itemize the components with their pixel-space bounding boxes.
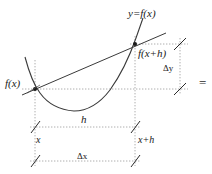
function-curve-parabola bbox=[25, 18, 143, 111]
dimension-tick-h-left bbox=[31, 121, 40, 133]
run-h-label: h bbox=[81, 114, 87, 125]
dimension-tick-delta-x-left bbox=[31, 155, 40, 167]
trailing-equals-sign: = bbox=[199, 76, 206, 89]
tick-x-label: x bbox=[36, 135, 40, 145]
diagram-canvas bbox=[0, 0, 212, 174]
f-x-plus-h-label: f(x+h) bbox=[138, 48, 166, 59]
calculus-secant-diagram: y=f(x) f(x+h) f(x) Δy h x x+h Δx = bbox=[0, 0, 212, 174]
delta-y-label: Δy bbox=[163, 64, 173, 73]
function-label: y=f(x) bbox=[128, 8, 156, 19]
point-marker-x-plus-h bbox=[133, 42, 137, 46]
f-x-label: f(x) bbox=[5, 78, 20, 89]
tick-x-plus-h-label: x+h bbox=[138, 135, 154, 145]
delta-x-label: Δx bbox=[77, 152, 87, 161]
secant-line bbox=[22, 33, 166, 95]
